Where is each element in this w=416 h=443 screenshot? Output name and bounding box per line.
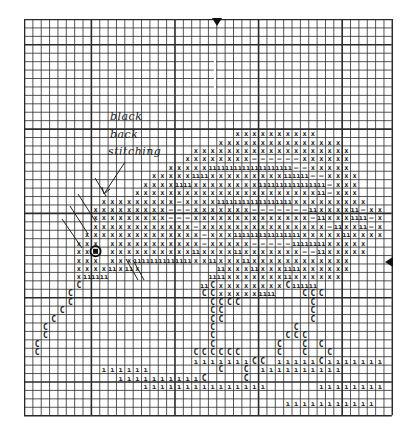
backstitch-lines	[0, 0, 416, 443]
